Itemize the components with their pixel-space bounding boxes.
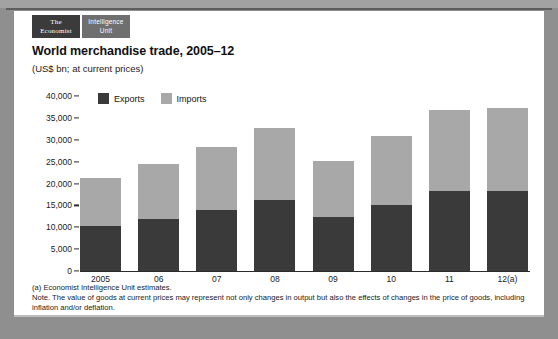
legend-swatch-exports-icon [98, 93, 109, 104]
bar-segment-imports[interactable] [80, 178, 121, 225]
bar-segment-exports[interactable] [196, 210, 237, 271]
bar-column[interactable] [487, 96, 528, 271]
bar-segment-imports[interactable] [254, 128, 295, 200]
y-axis-tick-mark [74, 183, 79, 184]
x-axis-line [80, 271, 530, 272]
bar-segment-exports[interactable] [80, 226, 121, 272]
y-axis-tick-mark [74, 95, 79, 96]
bar-series-container [80, 96, 528, 271]
y-axis-tick-mark [74, 205, 79, 206]
footnote-line-2: Note. The value of goods at current pric… [32, 293, 532, 303]
bar-segment-exports[interactable] [254, 200, 295, 271]
chart-legend: Exports Imports [98, 93, 207, 104]
y-axis-tick-mark [74, 270, 79, 271]
bar-segment-imports[interactable] [371, 136, 412, 205]
bar-column[interactable] [138, 96, 179, 271]
chart-card: The Economist Intelligence Unit World me… [14, 11, 544, 315]
bar-segment-exports[interactable] [429, 191, 470, 271]
page-top-band [0, 0, 558, 8]
bar-column[interactable] [371, 96, 412, 271]
bar-segment-imports[interactable] [196, 147, 237, 210]
y-axis-tick-mark [74, 249, 79, 250]
chart-area: 05,00010,00015,00020,00025,00030,00035,0… [14, 11, 544, 315]
footnote-line-3: inflation and/or deflation. [32, 303, 532, 313]
bar-segment-exports[interactable] [313, 217, 354, 271]
screenshot-root: The Economist Intelligence Unit World me… [0, 0, 558, 339]
y-axis-tick-mark [74, 227, 79, 228]
y-axis-tick-marks [14, 96, 84, 271]
bar-segment-imports[interactable] [138, 164, 179, 219]
legend-label-exports: Exports [114, 94, 145, 104]
bar-column[interactable] [254, 96, 295, 271]
y-axis-tick-mark [74, 139, 79, 140]
bar-column[interactable] [313, 96, 354, 271]
legend-item-exports: Exports [98, 93, 145, 104]
y-axis-tick-mark [74, 161, 79, 162]
y-axis-tick-mark [74, 117, 79, 118]
bar-segment-imports[interactable] [429, 110, 470, 191]
bar-segment-imports[interactable] [487, 108, 528, 190]
bar-segment-exports[interactable] [371, 205, 412, 271]
chart-footnotes: (a) Economist Intelligence Unit estimate… [32, 283, 532, 314]
bar-column[interactable] [429, 96, 470, 271]
footnote-line-1: (a) Economist Intelligence Unit estimate… [32, 283, 532, 293]
page-divider-rule [6, 8, 552, 10]
bar-column[interactable] [196, 96, 237, 271]
bar-segment-exports[interactable] [138, 219, 179, 272]
bar-segment-exports[interactable] [487, 191, 528, 272]
bar-segment-imports[interactable] [313, 161, 354, 217]
legend-item-imports: Imports [161, 93, 207, 104]
bar-column[interactable] [80, 96, 121, 271]
legend-label-imports: Imports [177, 94, 207, 104]
legend-swatch-imports-icon [161, 93, 172, 104]
